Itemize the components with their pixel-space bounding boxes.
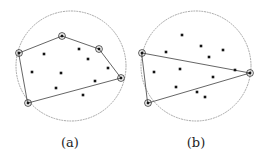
data-point-marker	[204, 96, 207, 99]
hull-vertex-point	[61, 35, 64, 38]
hull-vertex-point	[18, 52, 21, 55]
figure-container: (a) (b)	[0, 0, 264, 155]
data-point-marker	[200, 45, 203, 48]
figure-background	[0, 0, 264, 155]
data-point-marker	[181, 34, 184, 37]
data-point-marker	[107, 67, 110, 70]
hull-vertex-point	[249, 72, 252, 75]
panel-caption-b: (b)	[187, 135, 205, 150]
hull-vertex-point	[120, 77, 123, 80]
data-point-marker	[222, 49, 225, 52]
hull-vertex-point	[147, 102, 150, 105]
data-point-marker	[87, 58, 90, 61]
data-point-marker	[31, 71, 34, 74]
data-point-marker	[234, 69, 237, 72]
data-point-marker	[165, 51, 168, 54]
panel-caption-a: (a)	[61, 135, 79, 150]
data-point-marker	[212, 76, 215, 79]
data-point-marker	[208, 56, 211, 59]
data-point-marker	[55, 87, 58, 90]
data-point-marker	[153, 71, 156, 74]
data-point-marker	[43, 53, 46, 56]
hull-vertex-point	[98, 48, 101, 51]
hull-vertex-point	[27, 102, 30, 105]
data-point-marker	[179, 68, 182, 71]
figure-canvas: (a) (b)	[0, 0, 264, 155]
data-point-marker	[94, 80, 97, 83]
hull-vertex-point	[141, 52, 144, 55]
data-point-marker	[78, 48, 81, 51]
data-point-marker	[175, 86, 178, 89]
data-point-marker	[60, 72, 63, 75]
data-point-marker	[82, 94, 85, 97]
data-point-marker	[196, 91, 199, 94]
